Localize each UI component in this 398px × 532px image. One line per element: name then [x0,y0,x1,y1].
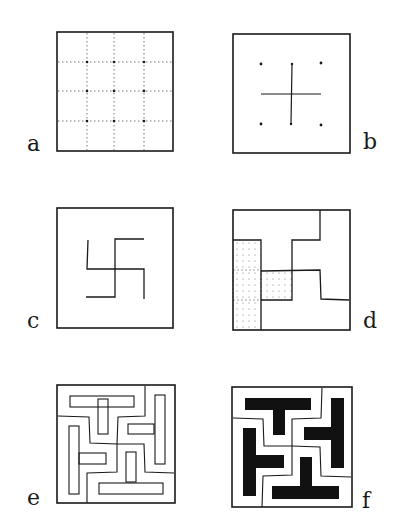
panel-f: f [0,0,398,532]
maze-solid-diagram [0,0,398,532]
panel-label-f: f [362,490,370,512]
